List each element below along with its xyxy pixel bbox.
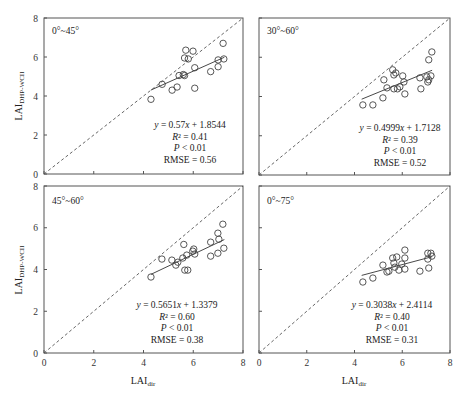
scatter-panel-2: 30°~60°y = 0.4999x + 1.7128R² = 0.39P < … bbox=[259, 18, 450, 175]
y-tick-label: 2 bbox=[33, 307, 38, 317]
data-point bbox=[207, 239, 213, 245]
x-tick-label: 6 bbox=[191, 358, 196, 368]
data-point bbox=[185, 56, 191, 62]
figure: 024680°~45°y = 0.57x + 1.8544R² = 0.41P … bbox=[0, 0, 466, 397]
data-point bbox=[184, 252, 190, 258]
data-point bbox=[370, 102, 376, 108]
y-tick-label: 4 bbox=[33, 92, 38, 102]
data-point bbox=[192, 65, 198, 71]
data-point bbox=[402, 266, 408, 272]
data-point bbox=[380, 262, 386, 268]
stats-annotation: RMSE = 0.56 bbox=[164, 155, 217, 165]
x-axis-label-right: LAIdir bbox=[342, 375, 367, 388]
stats-annotation: R² = 0.39 bbox=[381, 135, 418, 145]
data-point bbox=[417, 268, 423, 274]
data-point bbox=[402, 91, 408, 97]
x-tick-label: 4 bbox=[352, 358, 357, 368]
x-tick-label: 0 bbox=[257, 358, 262, 368]
x-tick-label: 0 bbox=[42, 358, 47, 368]
data-point bbox=[207, 68, 213, 74]
data-point bbox=[148, 96, 154, 102]
data-point bbox=[402, 247, 408, 253]
stats-annotation: RMSE = 0.38 bbox=[151, 335, 204, 345]
data-point bbox=[215, 64, 221, 70]
data-point bbox=[159, 256, 165, 262]
data-point bbox=[190, 48, 196, 54]
data-point bbox=[192, 251, 198, 257]
panel-title: 0°~45° bbox=[52, 26, 79, 36]
data-point bbox=[220, 221, 226, 227]
y-axis-label-bottom: LAIDHP-WCII bbox=[13, 245, 26, 295]
y-tick-label: 2 bbox=[33, 131, 38, 141]
stats-annotation: R² = 0.40 bbox=[373, 312, 410, 322]
data-point bbox=[159, 81, 165, 87]
panel-title: 0°~75° bbox=[267, 196, 294, 206]
data-point bbox=[396, 267, 402, 273]
data-point bbox=[360, 279, 366, 285]
y-tick-label: 4 bbox=[33, 265, 38, 275]
data-point bbox=[215, 250, 221, 256]
stats-annotation: R² = 0.60 bbox=[158, 312, 195, 322]
stats-annotation: P < 0.01 bbox=[383, 146, 417, 156]
data-point bbox=[429, 49, 435, 55]
data-point bbox=[418, 86, 424, 92]
stats-annotation: P < 0.01 bbox=[375, 323, 409, 333]
y-axis-label-top: LAIDHP-WCII bbox=[13, 71, 26, 121]
data-point bbox=[429, 253, 435, 259]
stats-annotation: R² = 0.41 bbox=[171, 132, 208, 142]
data-point bbox=[216, 236, 222, 242]
stats-annotation: y = 0.57x + 1.8544 bbox=[153, 120, 226, 130]
data-point bbox=[360, 102, 366, 108]
data-point bbox=[207, 253, 213, 259]
panel-title: 45°~60° bbox=[52, 196, 84, 206]
one-to-one-line bbox=[259, 18, 450, 175]
data-point bbox=[185, 267, 191, 273]
data-point bbox=[370, 275, 376, 281]
stats-annotation: y = 0.5651x + 1.3379 bbox=[136, 300, 218, 310]
data-point bbox=[386, 268, 392, 274]
stats-annotation: P < 0.01 bbox=[173, 143, 207, 153]
data-point bbox=[426, 57, 432, 63]
x-tick-label: 2 bbox=[91, 358, 96, 368]
data-point bbox=[183, 47, 189, 53]
stats-annotation: P < 0.01 bbox=[160, 323, 194, 333]
stats-annotation: RMSE = 0.52 bbox=[374, 158, 427, 168]
data-point bbox=[426, 265, 432, 271]
one-to-one-line bbox=[44, 18, 243, 174]
data-point bbox=[148, 274, 154, 280]
data-point bbox=[428, 73, 434, 79]
data-point bbox=[401, 79, 407, 85]
stats-annotation: y = 0.4999x + 1.7128 bbox=[359, 123, 441, 133]
data-point bbox=[220, 40, 226, 46]
data-point bbox=[181, 241, 187, 247]
x-tick-label: 2 bbox=[304, 358, 309, 368]
data-point bbox=[174, 84, 180, 90]
data-point bbox=[394, 254, 400, 260]
scatter-panel-1: 024680°~45°y = 0.57x + 1.8544R² = 0.41P … bbox=[33, 14, 243, 180]
stats-annotation: RMSE = 0.31 bbox=[366, 335, 419, 345]
y-tick-label: 0 bbox=[33, 170, 38, 180]
data-point bbox=[400, 73, 406, 79]
data-point bbox=[381, 77, 387, 83]
data-point bbox=[181, 72, 187, 78]
x-tick-label: 4 bbox=[141, 358, 146, 368]
x-tick-label: 8 bbox=[448, 358, 453, 368]
y-tick-label: 6 bbox=[33, 223, 38, 233]
data-point bbox=[215, 230, 221, 236]
data-point bbox=[221, 56, 227, 62]
y-tick-label: 6 bbox=[33, 53, 38, 63]
data-point bbox=[402, 255, 408, 261]
y-tick-label: 8 bbox=[33, 14, 38, 24]
x-tick-label: 6 bbox=[400, 358, 405, 368]
data-point bbox=[380, 95, 386, 101]
data-point bbox=[384, 85, 390, 91]
one-to-one-line bbox=[44, 186, 243, 353]
scatter-panel-4: 024680°~75°y = 0.3038x + 2.4114R² = 0.40… bbox=[257, 186, 453, 368]
data-point bbox=[417, 75, 423, 81]
data-point bbox=[393, 70, 399, 76]
x-axis-label-left: LAIdir bbox=[131, 375, 156, 388]
panel-title: 30°~60° bbox=[267, 26, 299, 36]
y-tick-label: 8 bbox=[33, 182, 38, 192]
data-point bbox=[192, 85, 198, 91]
x-tick-label: 8 bbox=[241, 358, 246, 368]
